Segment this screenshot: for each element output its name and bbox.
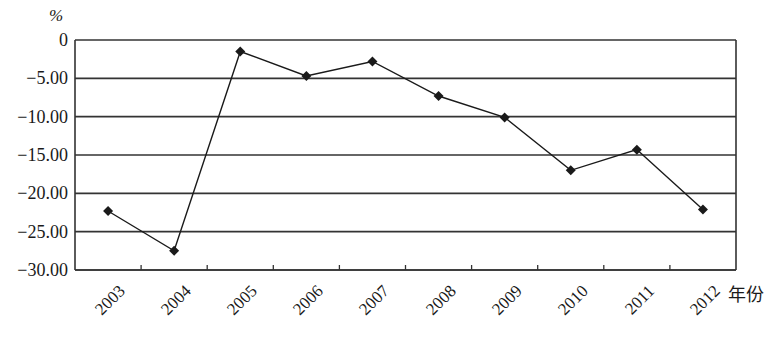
line-chart: % 0−5.00−10.00−15.00−20.00−25.00−30.00 2… [0, 0, 775, 351]
diamond-marker-icon [301, 71, 311, 81]
y-tick-label: −15.00 [17, 146, 68, 164]
series-line [108, 52, 703, 251]
y-tick-label: 0 [59, 31, 68, 49]
y-tick-label: −20.00 [17, 184, 68, 202]
y-tick-label: −30.00 [17, 261, 68, 279]
diamond-marker-icon [235, 47, 245, 57]
diamond-marker-icon [169, 246, 179, 256]
diamond-marker-icon [434, 91, 444, 101]
y-tick-label: −10.00 [17, 108, 68, 126]
y-axis-unit-label: % [49, 6, 63, 26]
y-tick-label: −25.00 [17, 223, 68, 241]
y-tick-label: −5.00 [26, 69, 68, 87]
diamond-marker-icon [367, 56, 377, 66]
x-axis-unit-label: 年份 [728, 280, 764, 306]
diamond-marker-icon [103, 206, 113, 216]
